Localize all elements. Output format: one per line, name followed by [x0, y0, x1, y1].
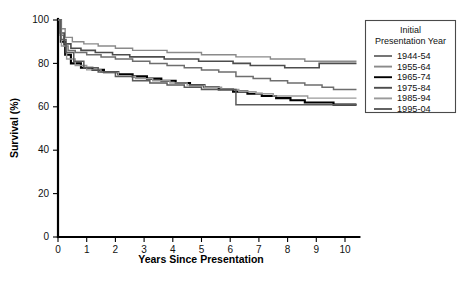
x-tick-label: 1: [84, 244, 90, 255]
legend-label-1995-04: 1995-04: [397, 104, 431, 114]
x-tick-label: 8: [285, 244, 291, 255]
legend-title-line1: Initial: [400, 25, 421, 35]
y-axis-ticks: 020406080100: [32, 14, 58, 242]
legend-label-1965-74: 1965-74: [397, 72, 431, 82]
survival-curves: [58, 20, 356, 105]
survival-curve-1995-04: [58, 20, 356, 105]
legend-label-1955-64: 1955-64: [397, 62, 431, 72]
x-axis-title: Years Since Presentation: [138, 253, 263, 265]
x-tick-label: 9: [314, 244, 320, 255]
y-axis-title: Survival (%): [8, 98, 20, 158]
chart-legend: Initial Presentation Year 1944-541955-64…: [366, 21, 456, 114]
survival-curve-1965-74: [58, 20, 356, 105]
y-tick-label: 60: [38, 101, 50, 112]
y-tick-label: 0: [43, 231, 49, 242]
chart-svg: 020406080100 012345678910 Survival (%) Y…: [0, 0, 462, 284]
y-tick-label: 40: [38, 144, 50, 155]
y-tick-label: 100: [32, 14, 49, 25]
x-tick-label: 10: [339, 244, 351, 255]
survival-curve-1955-64: [58, 20, 356, 61]
y-tick-label: 20: [38, 188, 50, 199]
x-tick-label: 2: [113, 244, 119, 255]
legend-label-1975-84: 1975-84: [397, 83, 431, 93]
legend-label-1985-94: 1985-94: [397, 93, 431, 103]
x-tick-label: 0: [55, 244, 61, 255]
y-tick-label: 80: [38, 58, 50, 69]
legend-label-1944-54: 1944-54: [397, 51, 431, 61]
legend-title-line2: Presentation Year: [375, 36, 446, 46]
survival-chart-figure: 020406080100 012345678910 Survival (%) Y…: [0, 0, 462, 284]
